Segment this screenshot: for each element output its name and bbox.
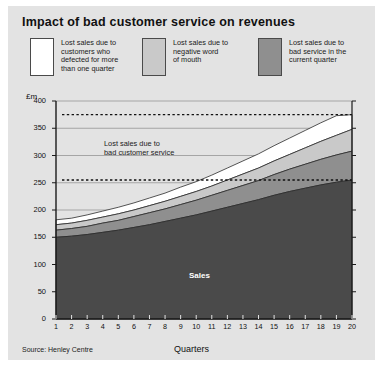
- x-tick-label: 1: [49, 322, 63, 331]
- x-tick-label: 8: [158, 322, 172, 331]
- x-tick-label: 19: [329, 322, 343, 331]
- x-tick-label: 13: [236, 322, 250, 331]
- x-tick-label: 6: [127, 322, 141, 331]
- x-tick-label: 18: [314, 322, 328, 331]
- inplot-annotation: Lost sales due to bad customer service: [104, 140, 174, 158]
- x-tick-label: 17: [298, 322, 312, 331]
- x-tick-label: 20: [345, 322, 359, 331]
- area-chart-svg: [8, 6, 375, 360]
- x-tick-label: 3: [80, 322, 94, 331]
- plot-area: [8, 6, 375, 360]
- x-tick-label: 14: [252, 322, 266, 331]
- y-tick-label: 350: [20, 123, 46, 132]
- y-tick-label: 200: [20, 205, 46, 214]
- y-tick-label: 300: [20, 151, 46, 160]
- sales-area-label: Sales: [189, 271, 210, 280]
- x-tick-label: 12: [220, 322, 234, 331]
- x-tick-label: 15: [267, 322, 281, 331]
- y-tick-label: 150: [20, 232, 46, 241]
- chart-panel: Impact of bad customer service on revenu…: [8, 6, 375, 360]
- y-tick-label: 50: [20, 287, 46, 296]
- x-tick-label: 2: [65, 322, 79, 331]
- x-tick-label: 5: [111, 322, 125, 331]
- x-tick-label: 4: [96, 322, 110, 331]
- y-tick-label: 250: [20, 178, 46, 187]
- y-tick-label: 100: [20, 260, 46, 269]
- x-tick-label: 11: [205, 322, 219, 331]
- x-tick-label: 10: [189, 322, 203, 331]
- x-tick-label: 9: [174, 322, 188, 331]
- x-tick-label: 7: [142, 322, 156, 331]
- x-tick-label: 16: [283, 322, 297, 331]
- source-note: Source: Henley Centre: [22, 346, 93, 353]
- y-tick-label: 400: [20, 96, 46, 105]
- y-tick-label: 0: [20, 314, 46, 323]
